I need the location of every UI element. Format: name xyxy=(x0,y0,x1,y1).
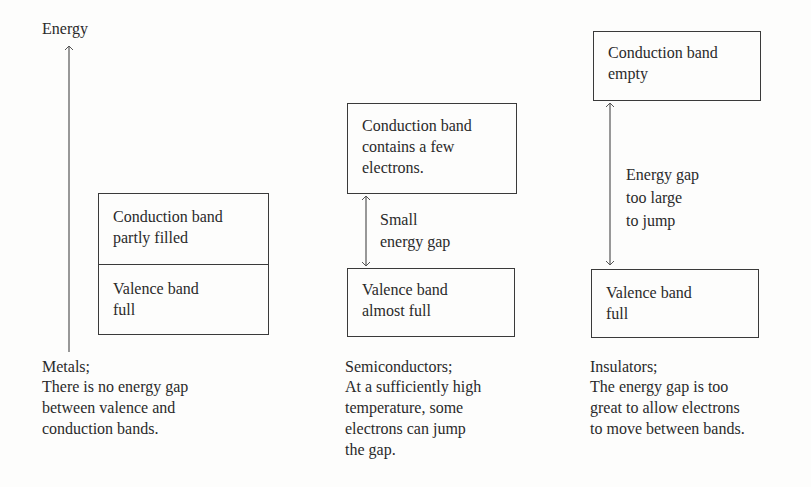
semiconductor-conduction-band-box: Conduction band contains a few electrons… xyxy=(347,103,517,194)
metals-caption-title: Metals; xyxy=(42,356,90,377)
insulator-conduction-band-box: Conduction band empty xyxy=(593,31,761,101)
insulator-conduction-band-label: Conduction band empty xyxy=(608,42,718,84)
insulator-caption-title: Insulators; xyxy=(590,356,658,377)
metals-conduction-band-label: Conduction band partly filled xyxy=(113,206,223,248)
semiconductor-valence-band-label: Valence band almost full xyxy=(362,279,448,321)
semiconductor-caption-body: At a sufficiently high temperature, some… xyxy=(345,376,481,460)
metals-valence-band-label: Valence band full xyxy=(113,278,199,320)
semiconductor-valence-band-box: Valence band almost full xyxy=(347,268,515,337)
insulator-caption-body: The energy gap is too great to allow ele… xyxy=(590,376,745,439)
metals-band-divider xyxy=(99,264,268,265)
metals-caption-body: There is no energy gap between valence a… xyxy=(42,376,188,439)
energy-axis-label: Energy xyxy=(42,18,88,39)
insulator-gap-label: Energy gap too large to jump xyxy=(626,163,699,232)
semiconductor-gap-label: Small energy gap xyxy=(380,209,450,253)
semiconductor-conduction-band-label: Conduction band contains a few electrons… xyxy=(362,115,472,178)
insulator-valence-band-box: Valence band full xyxy=(591,269,759,338)
insulator-valence-band-label: Valence band full xyxy=(606,282,692,324)
metals-band-box: Conduction band partly filled Valence ba… xyxy=(98,193,269,335)
semiconductor-caption-title: Semiconductors; xyxy=(345,356,453,377)
